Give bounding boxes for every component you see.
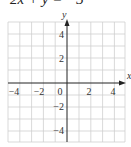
x-tick-label: −2 xyxy=(34,86,45,97)
y-tick-label: −2 xyxy=(53,101,64,112)
x-tick-label: 4 xyxy=(111,86,116,97)
coordinate-grid: x y −4 −2 0 2 4 4 2 −2 −4 xyxy=(0,0,131,147)
x-axis-label: x xyxy=(126,70,131,81)
y-axis-arrow-icon xyxy=(65,19,70,26)
y-tick-label: 4 xyxy=(59,29,64,40)
x-tick-label: 0 xyxy=(58,86,63,97)
axes xyxy=(8,24,122,142)
x-tick-label: −4 xyxy=(9,86,20,97)
y-axis-label: y xyxy=(61,9,67,20)
y-tick-label: 2 xyxy=(59,53,64,64)
y-tick-label: −4 xyxy=(53,125,64,136)
x-tick-label: 2 xyxy=(87,86,92,97)
